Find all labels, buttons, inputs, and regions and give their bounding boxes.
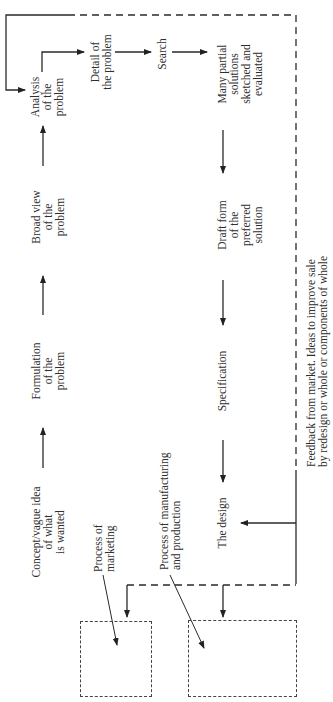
- label-manufacturing: Process of manufacturing and production: [158, 430, 182, 570]
- label-marketing: Process of marketing: [92, 502, 116, 572]
- node-search: Search: [156, 36, 168, 72]
- manufacturing-box: [188, 620, 297, 697]
- node-analysis: Analysis of the problem: [29, 74, 65, 120]
- node-specification: Specification: [216, 346, 228, 416]
- node-broad-view: Broad view of the problem: [30, 187, 66, 247]
- node-the-design: The design: [216, 494, 228, 552]
- label-feedback: Feedback from market. Ideas to improve s…: [305, 227, 329, 467]
- node-concept: Concept/vague idea of what is wanted: [30, 478, 66, 586]
- arrow-analysis-to-detail: [42, 52, 84, 72]
- node-formulation: Formulation of the problem: [30, 340, 66, 402]
- node-detail: Detail of the problem: [89, 28, 113, 96]
- node-partial-solutions: Many partial solutions sketched and eval…: [216, 34, 264, 114]
- marketing-box: [80, 621, 152, 697]
- node-draft-form: Draft form of the preferred solution: [216, 192, 264, 258]
